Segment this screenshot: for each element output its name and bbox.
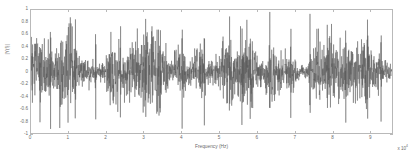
x-tick-mark — [333, 131, 334, 134]
x-tick-label: 9 — [369, 136, 372, 141]
x-tick-mark — [370, 131, 371, 134]
x-tick-mark — [143, 9, 144, 12]
x-tick-mark — [295, 9, 296, 12]
y-tick-label: 0.8 — [22, 19, 28, 24]
y-tick-label: -0.4 — [20, 94, 28, 99]
y-tick-label: 0.6 — [22, 32, 28, 37]
x-tick-label: 6 — [256, 136, 259, 141]
x-tick-label: 0 — [29, 136, 32, 141]
y-tick-label: -0.2 — [20, 82, 28, 87]
y-tick-label: -1 — [24, 132, 28, 137]
x-tick-mark — [30, 9, 31, 12]
x-tick-label: 4 — [180, 136, 183, 141]
x-tick-mark — [333, 9, 334, 12]
x-tick-mark — [68, 131, 69, 134]
x-tick-mark — [143, 131, 144, 134]
x-tick-mark — [106, 9, 107, 12]
x-axis-label: Frequency (Hz) — [30, 145, 393, 150]
x-tick-mark — [219, 9, 220, 12]
y-tick-label: 0 — [25, 69, 28, 74]
y-tick-label: 0.2 — [22, 57, 28, 62]
x-tick-mark — [106, 131, 107, 134]
x-tick-mark — [68, 9, 69, 12]
x-tick-mark — [181, 131, 182, 134]
x-tick-mark — [219, 131, 220, 134]
x-tick-mark — [181, 9, 182, 12]
y-tick-label: 1 — [25, 7, 28, 12]
x-tick-mark — [30, 131, 31, 134]
x-tick-mark — [370, 9, 371, 12]
figure-panel: |Y(f)| -1-0.8-0.6-0.4-0.200.20.40.60.81 … — [0, 0, 414, 160]
y-tick-label: -0.8 — [20, 119, 28, 124]
x-tick-mark — [257, 9, 258, 12]
y-tick-mark — [390, 134, 393, 135]
exponent-base: x 10 — [397, 146, 406, 151]
y-tick-label: -0.6 — [20, 107, 28, 112]
x-tick-label: 1 — [67, 136, 70, 141]
y-tick-label: 0.4 — [22, 44, 28, 49]
exponent-power: 4 — [406, 144, 408, 148]
x-tick-mark — [257, 131, 258, 134]
x-axis-tick-marks — [30, 9, 393, 134]
x-tick-label: 8 — [331, 136, 334, 141]
x-tick-label: 5 — [218, 136, 221, 141]
y-axis-tick-labels: -1-0.8-0.6-0.4-0.200.20.40.60.81 — [0, 9, 28, 134]
x-tick-label: 7 — [293, 136, 296, 141]
x-tick-mark — [295, 131, 296, 134]
x-axis-exponent-label: x 104 — [397, 145, 408, 151]
x-tick-label: 3 — [142, 136, 145, 141]
x-tick-label: 2 — [104, 136, 107, 141]
